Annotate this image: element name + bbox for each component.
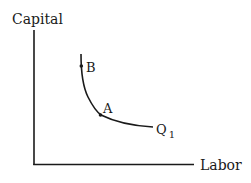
x-axis-label: Labor bbox=[200, 157, 242, 173]
curve-label: Q1 bbox=[156, 122, 175, 140]
y-axis-label: Capital bbox=[12, 11, 63, 27]
point-b-dot bbox=[80, 64, 84, 68]
isoquant-diagram: Capital Labor B A Q1 bbox=[0, 0, 251, 183]
point-a-dot bbox=[99, 113, 103, 117]
curve-label-subscript: 1 bbox=[169, 129, 175, 140]
curve-label-main: Q bbox=[156, 122, 167, 137]
point-a-label: A bbox=[102, 101, 113, 116]
point-b-label: B bbox=[86, 60, 96, 75]
